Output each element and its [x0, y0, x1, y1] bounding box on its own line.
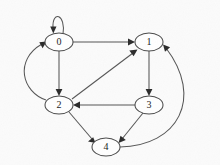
- node-ellipse[interactable]: [45, 96, 73, 114]
- graph-node[interactable]: 2: [45, 96, 73, 114]
- directed-graph-figure: 01234: [0, 0, 220, 165]
- graph-node[interactable]: 0: [45, 33, 73, 51]
- graph-canvas: 01234: [0, 0, 220, 165]
- node-ellipse[interactable]: [135, 33, 163, 51]
- node-ellipse[interactable]: [45, 33, 73, 51]
- node-ellipse[interactable]: [92, 138, 120, 156]
- node-ellipse[interactable]: [135, 96, 163, 114]
- graph-node[interactable]: 1: [135, 33, 163, 51]
- graph-node[interactable]: 3: [135, 96, 163, 114]
- graph-node[interactable]: 4: [92, 138, 120, 156]
